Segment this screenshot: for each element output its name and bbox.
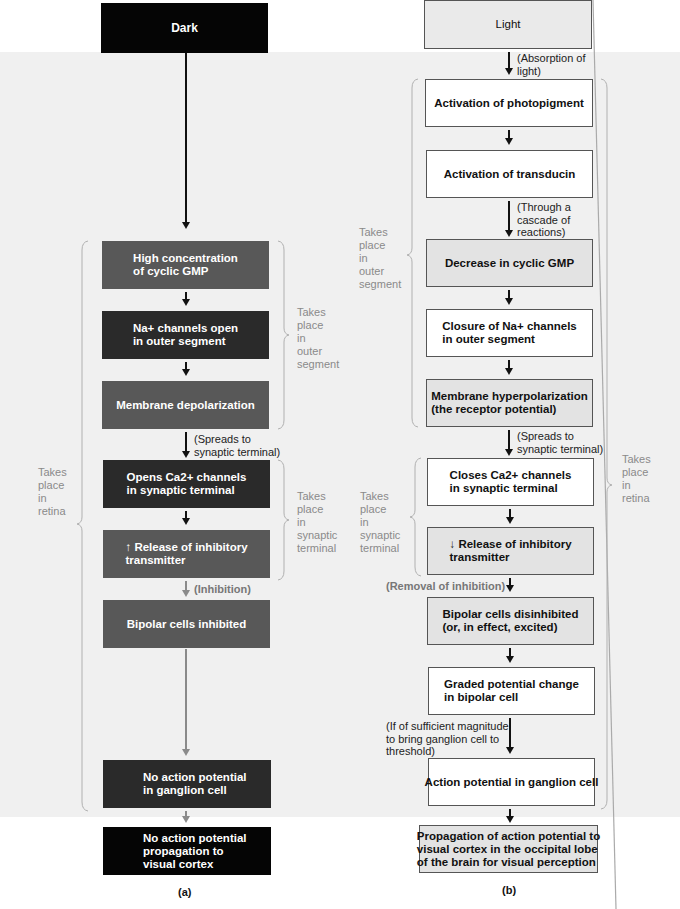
arrow-head-icon — [182, 369, 190, 376]
synaptic-terminal-label-b: Takes place in synaptic terminal — [360, 490, 400, 555]
step-text: Na+ channels open in outer segment — [133, 322, 238, 348]
arrow-head-icon — [506, 816, 514, 823]
spreads-note: (Spreads to synaptic terminal) — [194, 433, 280, 458]
step-box: Propagation of action potential to visua… — [419, 825, 598, 873]
panel-a-caption: (a) — [178, 886, 191, 898]
step-text: ↑ Release of inhibitory transmitter — [125, 541, 247, 567]
step-box: ↑ Release of inhibitory transmitter — [103, 530, 270, 578]
step-text: Membrane depolarization — [116, 399, 255, 412]
step-box: Closure of Na+ channels in outer segment — [426, 309, 593, 357]
arrow-shaft — [185, 53, 187, 223]
synaptic-terminal-label: Takes place in synaptic terminal — [297, 490, 337, 555]
panel-b-caption: (b) — [502, 884, 516, 896]
step-box: Activation of transducin — [426, 150, 593, 198]
dark-box: Dark — [101, 3, 268, 53]
step-text: Bipolar cells inhibited — [127, 618, 247, 631]
step-box: Activation of photopigment — [425, 79, 593, 127]
cascade-note: (Through a cascade of reactions) — [517, 201, 571, 239]
step-text: High concentration of cyclic GMP — [133, 252, 238, 278]
retina-label-a: Takes place in retina — [38, 466, 67, 518]
arrow-head-icon — [182, 749, 190, 756]
step-text: Activation of photopigment — [434, 97, 583, 110]
arrow-head-icon — [505, 449, 513, 456]
arrow-head-icon — [182, 451, 190, 458]
step-text: Bipolar cells disinhibited (or, in effec… — [442, 608, 578, 634]
arrow-shaft — [185, 649, 187, 749]
step-text: Graded potential change in bipolar cell — [444, 678, 579, 704]
step-box: Graded potential change in bipolar cell — [428, 667, 595, 715]
step-text: ↓ Release of inhibitory transmitter — [449, 538, 571, 564]
synaptic-terminal-brace-b — [407, 457, 423, 577]
arrow-head-icon — [506, 517, 514, 524]
step-text: Action potential in ganglion cell — [425, 776, 599, 789]
step-text: Membrane hyperpolarization (the receptor… — [431, 390, 588, 416]
removal-note: (Removal of inhibition) — [386, 580, 505, 593]
arrow-shaft — [185, 432, 187, 452]
step-box: No action potential propagation to visua… — [103, 827, 271, 875]
outer-segment-brace — [276, 240, 292, 430]
inhibition-note: (Inhibition) — [194, 583, 251, 596]
magnitude-note: (If of sufficient magnitude to bring gan… — [386, 720, 509, 758]
arrow-head-icon — [505, 368, 513, 375]
step-box: Membrane depolarization — [102, 381, 269, 429]
spreads-note-b: (Spreads to synaptic terminal) — [517, 430, 603, 455]
step-box: No action potential in ganglion cell — [103, 760, 271, 808]
arrow-head-icon — [505, 68, 513, 75]
step-text: Opens Ca2+ channels in synaptic terminal — [127, 471, 247, 497]
step-text: No action potential in ganglion cell — [143, 771, 247, 797]
arrow-head-icon — [182, 816, 190, 823]
step-box: Closes Ca2+ channels in synaptic termina… — [427, 458, 594, 506]
step-box: Bipolar cells disinhibited (or, in effec… — [427, 597, 594, 645]
arrow-head-icon — [182, 299, 190, 306]
arrow-shaft — [509, 718, 511, 748]
synaptic-terminal-brace — [276, 459, 292, 581]
step-text: Decrease in cyclic GMP — [445, 257, 574, 270]
outer-segment-brace-b — [404, 78, 420, 428]
step-text: Activation of transducin — [444, 168, 576, 181]
retina-brace — [74, 240, 90, 812]
arrow-head-icon — [506, 656, 514, 663]
step-box: High concentration of cyclic GMP — [102, 241, 269, 289]
arrow-head-icon — [182, 518, 190, 525]
arrow-shaft — [508, 201, 510, 231]
arrow-shaft — [508, 430, 510, 450]
step-box: Na+ channels open in outer segment — [102, 311, 269, 359]
light-label: Light — [496, 18, 521, 31]
outer-segment-label: Takes place in outer segment — [297, 306, 339, 371]
arrow-head-icon — [182, 590, 190, 597]
step-box: Decrease in cyclic GMP — [426, 239, 593, 287]
step-text: Propagation of action potential to visua… — [417, 830, 600, 869]
step-text: Closes Ca2+ channels in synaptic termina… — [450, 469, 572, 495]
arrow-shaft — [508, 52, 510, 69]
arrow-head-icon — [505, 230, 513, 237]
step-box: ↓ Release of inhibitory transmitter — [427, 527, 594, 575]
dark-label: Dark — [171, 22, 198, 35]
retina-brace-b — [599, 78, 615, 810]
step-box: Membrane hyperpolarization (the receptor… — [426, 379, 593, 427]
light-box: Light — [424, 0, 592, 49]
arrow-head-icon — [505, 298, 513, 305]
arrow-head-icon — [505, 138, 513, 145]
step-box: Opens Ca2+ channels in synaptic terminal — [103, 460, 270, 508]
absorption-note: (Absorption of light) — [517, 52, 585, 77]
step-box: Bipolar cells inhibited — [103, 600, 270, 648]
outer-segment-label-b: Takes place in outer segment — [359, 226, 401, 291]
arrow-head-icon — [506, 585, 514, 592]
step-text: No action potential propagation to visua… — [143, 832, 247, 871]
step-text: Closure of Na+ channels in outer segment — [442, 320, 577, 346]
step-box: Action potential in ganglion cell — [428, 758, 595, 806]
retina-label-b: Takes place in retina — [622, 453, 651, 505]
arrow-head-icon — [182, 222, 190, 229]
